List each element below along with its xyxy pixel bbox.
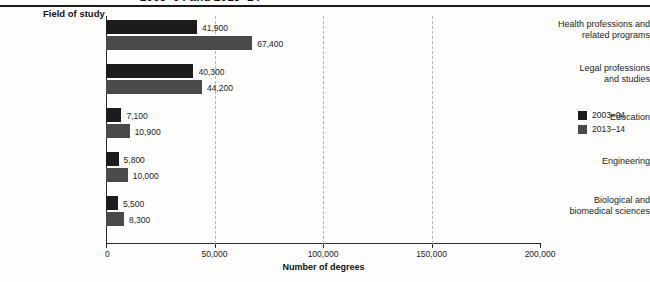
- figure-title-text: 2003–04 and 2013–14: [140, 0, 260, 3]
- legend-label-2003-04: 2003–04: [592, 110, 625, 120]
- x-tick-label-0: 0: [105, 249, 110, 259]
- bar-2003-04: [106, 20, 197, 34]
- bar-2013-14: [106, 124, 130, 138]
- bar-value-label: 5,800: [124, 155, 145, 165]
- x-tick-label-50000: 50,000: [202, 249, 228, 259]
- bar-value-label: 44,200: [207, 83, 233, 93]
- bar-2013-14: [106, 168, 128, 182]
- field-of-study-header: Field of study: [43, 8, 105, 19]
- bar-value-label: 8,300: [129, 215, 150, 225]
- x-tick-label-150000: 150,000: [416, 249, 447, 259]
- bar-2003-04: [106, 196, 118, 210]
- header-rule: [0, 5, 650, 7]
- category-label: Legal professionsand studies: [546, 63, 650, 84]
- category-label: Health professions andrelated programs: [546, 19, 650, 40]
- gridline-50000: [215, 16, 216, 244]
- gridline-150000: [432, 16, 433, 244]
- bar-2013-14: [106, 36, 252, 50]
- bar-value-label: 10,000: [133, 171, 159, 181]
- x-tick-0: [106, 244, 107, 248]
- x-tick-100000: [323, 244, 324, 248]
- x-tick-label-200000: 200,000: [525, 249, 556, 259]
- category-label-line: Engineering: [546, 156, 650, 167]
- bar-2013-14: [106, 212, 124, 226]
- chart-figure: 2003–04 and 2013–14 Field of study 050,0…: [0, 0, 650, 282]
- bar-value-label: 5,500: [123, 199, 144, 209]
- legend-swatch-2013-14: [578, 125, 587, 134]
- bar-value-label: 40,300: [198, 67, 224, 77]
- x-tick-label-100000: 100,000: [308, 249, 339, 259]
- bar-value-label: 7,100: [126, 111, 147, 121]
- x-tick-150000: [432, 244, 433, 248]
- category-label-line: Legal professions: [546, 63, 650, 74]
- bar-2003-04: [106, 108, 121, 122]
- bar-value-label: 10,900: [135, 127, 161, 137]
- category-label-line: biomedical sciences: [546, 206, 650, 217]
- legend-swatch-2003-04: [578, 111, 587, 120]
- category-label-line: Biological and: [546, 195, 650, 206]
- category-label-line: related programs: [546, 30, 650, 41]
- legend-label-2013-14: 2013–14: [592, 124, 625, 134]
- legend-item-2013-14: 2013–14: [578, 124, 625, 134]
- x-tick-200000: [540, 244, 541, 248]
- bar-value-label: 67,400: [257, 39, 283, 49]
- category-label-line: and studies: [546, 74, 650, 85]
- bar-2003-04: [106, 64, 193, 78]
- bar-2003-04: [106, 152, 119, 166]
- x-tick-50000: [215, 244, 216, 248]
- category-label-line: Health professions and: [546, 19, 650, 30]
- bar-value-label: 41,900: [202, 23, 228, 33]
- gridline-100000: [323, 16, 324, 244]
- legend: 2003–04 2013–14: [578, 110, 625, 138]
- category-label: Biological andbiomedical sciences: [546, 195, 650, 216]
- category-label: Engineering: [546, 156, 650, 167]
- bar-2013-14: [106, 80, 202, 94]
- x-axis-title: Number of degrees: [106, 262, 541, 272]
- legend-item-2003-04: 2003–04: [578, 110, 625, 120]
